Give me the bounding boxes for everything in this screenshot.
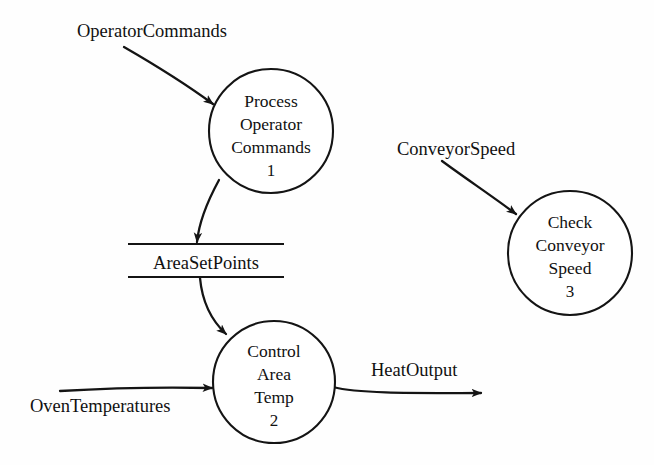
- process-1-line-3: Commands: [231, 137, 311, 157]
- dfd-svg: OperatorCommands AreaSetPoints OvenTempe…: [0, 0, 654, 465]
- flow-heat-output: HeatOutput: [333, 360, 481, 393]
- process-2-line-2: Area: [257, 364, 291, 384]
- process-3-line-1: Check: [548, 212, 593, 232]
- flow-label-operator-commands: OperatorCommands: [77, 21, 227, 41]
- process-3-line-3: Speed: [549, 258, 592, 278]
- flow-label-conveyor-speed: ConveyorSpeed: [397, 139, 516, 159]
- flow-arrow-areasetpoints-out: [197, 180, 219, 242]
- flow-arrow-areasetpoints-in: [200, 278, 226, 334]
- flow-arrow-conveyor-speed: [442, 161, 516, 214]
- flow-label-heat-output: HeatOutput: [371, 360, 458, 380]
- dfd-canvas: OperatorCommands AreaSetPoints OvenTempe…: [0, 0, 654, 465]
- flow-store-to-process2: [200, 278, 226, 334]
- process-3-line-2: Conveyor: [535, 235, 604, 255]
- flow-arrow-heat-output: [333, 387, 481, 393]
- process-bubble-1[interactable]: Process Operator Commands 1: [209, 69, 333, 193]
- process-1-line-2: Operator: [240, 114, 302, 134]
- process-bubble-2[interactable]: Control Area Temp 2: [213, 321, 335, 443]
- process-2-number: 2: [270, 411, 279, 430]
- data-store-areasetpoints: AreaSetPoints: [128, 244, 284, 277]
- flow-label-oven-temperatures: OvenTemperatures: [30, 396, 170, 416]
- process-1-number: 1: [267, 161, 276, 180]
- data-store-label: AreaSetPoints: [153, 253, 259, 273]
- flow-oven-temperatures: OvenTemperatures: [30, 388, 212, 416]
- process-2-line-1: Control: [247, 341, 301, 361]
- process-1-line-1: Process: [244, 91, 298, 111]
- flow-arrow-oven-temperatures: [60, 388, 212, 391]
- flow-process1-to-store: [197, 180, 219, 242]
- flow-conveyor-speed: ConveyorSpeed: [397, 139, 516, 214]
- flow-operator-commands: OperatorCommands: [77, 21, 227, 104]
- process-bubble-3[interactable]: Check Conveyor Speed 3: [508, 191, 632, 315]
- process-2-line-3: Temp: [254, 387, 294, 407]
- flow-arrow-operator-commands: [124, 47, 213, 104]
- process-3-number: 3: [566, 282, 575, 301]
